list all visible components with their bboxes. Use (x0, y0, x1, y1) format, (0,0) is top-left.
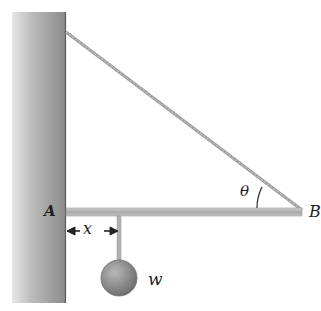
cable (66, 32, 302, 210)
angle-arc (257, 187, 262, 208)
angle-label-theta: θ (240, 184, 249, 199)
weight-label-w: w (148, 271, 163, 288)
hanger-rod (117, 216, 121, 262)
weight-ball (101, 260, 137, 296)
distance-arrow (67, 227, 118, 235)
beam (66, 208, 302, 216)
distance-label-x: x (83, 221, 92, 237)
pivot-label-a: A (44, 204, 56, 219)
wall (12, 12, 66, 303)
beam-end-label-b: B (309, 204, 321, 220)
